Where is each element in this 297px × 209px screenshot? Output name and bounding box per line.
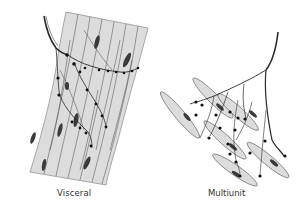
visceral-panel: Visceral: [29, 12, 148, 198]
visceral-caption: Visceral: [57, 188, 91, 198]
muscle-fibers: [157, 75, 292, 190]
multiunit-panel: Multiunit: [157, 32, 292, 198]
diagram-canvas: Visceral: [0, 0, 297, 209]
smooth-muscle-diagram: Visceral: [0, 0, 297, 209]
multiunit-caption: Multiunit: [208, 188, 246, 198]
